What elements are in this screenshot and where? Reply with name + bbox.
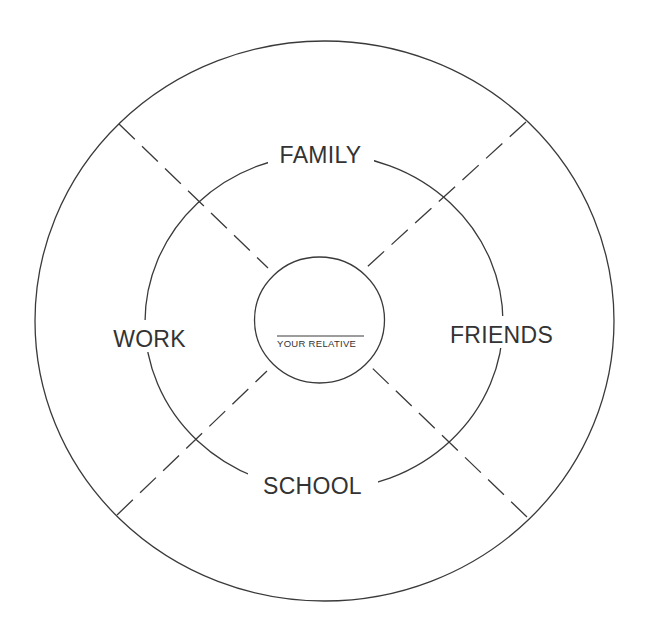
label-school: SCHOOL (263, 473, 362, 499)
label-your-relative: YOUR RELATIVE (277, 338, 356, 349)
label-family: FAMILY (280, 142, 362, 168)
label-friends: FRIENDS (450, 322, 553, 348)
divider-bottom-left (117, 371, 267, 515)
divider-top-right (367, 122, 526, 267)
relationship-diagram: FAMILY FRIENDS SCHOOL WORK YOUR RELATIVE (0, 0, 647, 638)
divider-top-left (119, 124, 268, 268)
label-work: WORK (113, 326, 186, 352)
inner-circle (255, 257, 385, 383)
diagram-canvas: FAMILY FRIENDS SCHOOL WORK YOUR RELATIVE (0, 0, 647, 638)
divider-bottom-right (367, 363, 527, 517)
